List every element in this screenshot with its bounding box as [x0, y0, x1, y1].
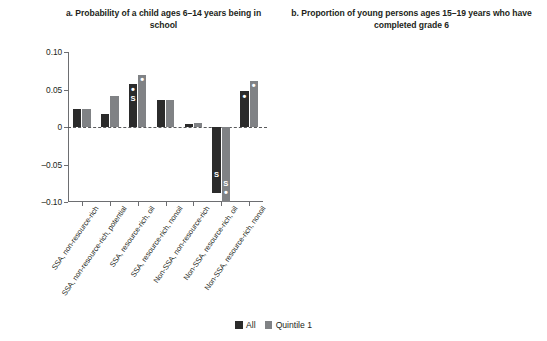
panel-a-y-tick-label: –0.05 [42, 160, 62, 170]
legend-label-q1: Quintile 1 [276, 320, 312, 330]
x-axis-category-label: Non-SSA, resource-rich, nonoil [203, 205, 267, 292]
panel-a-y-tick-label: 0 [57, 122, 62, 132]
significance-marker: • [252, 82, 256, 88]
panel-a: a. Probability of a child ages 6–14 year… [0, 0, 275, 341]
panel-a-y-tick [64, 90, 68, 91]
bar [101, 114, 109, 127]
significance-marker: S [130, 95, 135, 103]
legend-label-all: All [246, 320, 256, 330]
significance-marker: • [242, 93, 246, 99]
significance-marker: S [214, 171, 219, 179]
panel-a-zero-line [68, 127, 267, 128]
legend-swatch-q1 [265, 321, 273, 329]
panel-a-x-labels: SSA, non-resource-richSSA, non-resource-… [68, 205, 263, 303]
significance-marker: • [224, 189, 228, 195]
panel-a-y-tick-label: –0.10 [42, 197, 62, 207]
bar [82, 109, 90, 127]
panel-a-y-tick [64, 165, 68, 166]
x-axis-category-label: Non-SSA, resource-rich, oil [183, 205, 240, 282]
bar [166, 100, 174, 127]
panel-a-y-tick [64, 202, 68, 203]
legend-item-all: All [235, 320, 256, 330]
panel-a-plot-area: 0.100.050–0.05–0.10•S•SS••• [68, 52, 263, 202]
significance-marker: • [140, 76, 144, 82]
bar [73, 109, 81, 127]
bar [110, 96, 118, 127]
figure-container: a. Probability of a child ages 6–14 year… [0, 0, 547, 341]
bar [212, 127, 220, 193]
bar [194, 123, 202, 127]
significance-marker: • [131, 86, 135, 92]
panel-a-y-tick-label: 0.05 [46, 85, 62, 95]
panel-a-y-tick [64, 52, 68, 53]
x-axis-category-label: SSA, non-resource-rich [50, 205, 100, 272]
panel-b: b. Proportion of young persons ages 15–1… [272, 0, 547, 341]
x-axis-category-label: SSA, resource-rich, nonoil [129, 205, 184, 279]
legend-swatch-all [235, 321, 243, 329]
panel-a-y-tick-label: 0.10 [46, 47, 62, 57]
panel-a-title: a. Probability of a child ages 6–14 year… [0, 8, 275, 31]
bar [157, 100, 165, 127]
panel-b-title: b. Proportion of young persons ages 15–1… [272, 8, 547, 31]
legend-item-q1: Quintile 1 [265, 320, 312, 330]
bar [185, 124, 193, 127]
legend: AllQuintile 1 [0, 320, 547, 330]
